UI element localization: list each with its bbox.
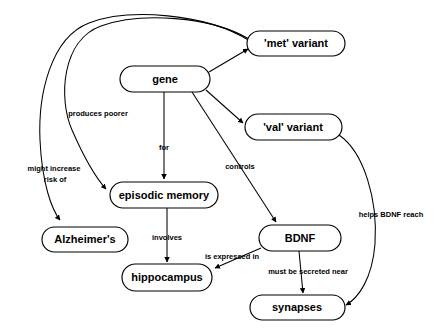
node-episodic-memory[interactable]: episodic memory: [110, 182, 218, 208]
edge-label-produces-poorer: produces poorer: [68, 109, 128, 118]
edge-label-line-1: might increase: [27, 164, 80, 173]
edge-label-involves: involves: [152, 233, 182, 242]
node-alzheimers[interactable]: Alzheimer's: [42, 227, 128, 252]
edges-layer: [40, 15, 376, 305]
edge-label-helps-bdnf-reach: helps BDNF reach: [359, 210, 424, 219]
node-hippocampus[interactable]: hippocampus: [122, 264, 212, 291]
concept-map-canvas: produces poorer might increase risk of f…: [0, 0, 442, 336]
edge-gene-met: [209, 49, 248, 72]
edge-label-line-2: risk of: [44, 175, 67, 184]
node-gene[interactable]: gene: [120, 66, 210, 92]
nodes-layer: 'met' variant gene 'val' variant episodi…: [42, 31, 345, 320]
node-bdnf-label: BDNF: [285, 232, 316, 244]
edge-gene-val: [206, 90, 243, 123]
node-met-variant-label: 'met' variant: [264, 37, 328, 49]
node-gene-label: gene: [152, 73, 178, 85]
edge-label-controls: controls: [225, 162, 255, 171]
node-hippocampus-label: hippocampus: [131, 271, 203, 283]
node-val-variant-label: 'val' variant: [263, 121, 323, 133]
node-episodic-memory-label: episodic memory: [119, 189, 210, 201]
concept-map-graph: produces poorer might increase risk of f…: [0, 0, 442, 336]
node-alzheimers-label: Alzheimer's: [54, 233, 115, 245]
edge-label-might-increase-risk-of: might increase risk of: [27, 164, 82, 184]
edge-label-for: for: [159, 143, 169, 152]
node-synapses[interactable]: synapses: [250, 295, 345, 320]
node-synapses-label: synapses: [272, 301, 322, 313]
edge-label-must-be-secreted-near: must be secreted near: [268, 267, 348, 276]
node-val-variant[interactable]: 'val' variant: [245, 114, 342, 140]
edge-label-is-expressed-in: is expressed in: [205, 252, 260, 261]
node-met-variant[interactable]: 'met' variant: [247, 31, 345, 56]
node-bdnf[interactable]: BDNF: [259, 225, 341, 251]
edge-val-synapses: [339, 135, 375, 305]
